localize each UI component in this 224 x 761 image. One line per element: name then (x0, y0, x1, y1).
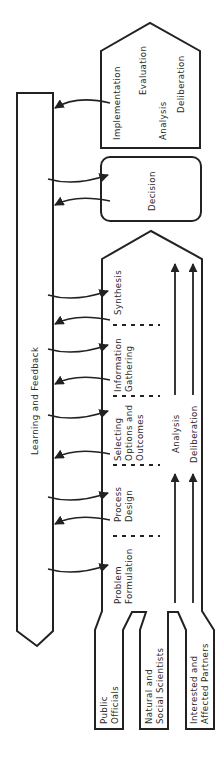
step-information-line2: Gathering (124, 346, 134, 392)
decision-box: Decision (101, 157, 201, 221)
arrow-to-stage-icon (48, 565, 108, 572)
step-selecting-line1: Selecting (113, 418, 123, 461)
arrow-to-stage-icon (48, 411, 108, 418)
diagram-canvas: Learning and Feedback Implementation Eva… (0, 0, 224, 761)
participant-partners-line1: Interested and (189, 656, 199, 724)
participant-scientists-line1: Natural and (144, 669, 154, 724)
step-selecting-line2: Options and (124, 405, 134, 461)
step-selecting-line3: Outcomes (135, 414, 145, 461)
participant-public-line2: Officials (110, 686, 120, 724)
feedback-label: Learning and Feedback (30, 347, 40, 455)
top-analysis-label: Analysis (158, 101, 168, 140)
evaluation-label: Evaluation (138, 46, 148, 95)
participant-public-line1: Public (99, 696, 109, 724)
step-problem-line1: Problem (113, 566, 123, 604)
arrow-to-stage-icon (48, 175, 108, 182)
arrow-to-stage-icon (48, 291, 108, 298)
step-problem-line2: Formulation (124, 548, 134, 604)
step-synthesis: Synthesis (113, 270, 123, 315)
arrow-to-stage-icon (48, 345, 108, 352)
step-process-line1: Process (113, 486, 123, 522)
feedback-bar: Learning and Feedback (17, 93, 53, 646)
step-information-line1: Information (113, 338, 123, 392)
arrow-to-stage-icon (48, 493, 108, 500)
implementation-stage: Implementation Evaluation Analysis Delib… (101, 23, 200, 148)
implementation-label: Implementation (112, 66, 122, 140)
decision-label: Decision (147, 171, 157, 211)
analysis-stream-label: Analysis (171, 414, 181, 453)
step-process-line2: Design (124, 490, 134, 522)
participant-partners-line2: Affected Partners (200, 643, 210, 724)
participant-scientists-line2: Social Scientists (155, 647, 165, 724)
top-deliberation-label: Deliberation (176, 56, 186, 113)
deliberation-stream-label: Deliberation (189, 406, 199, 463)
